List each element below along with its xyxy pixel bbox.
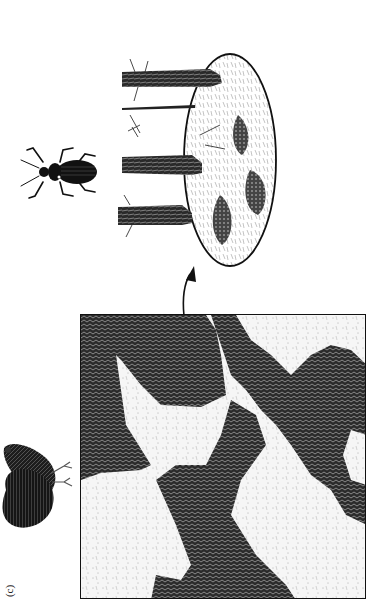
landscape-map	[80, 314, 366, 599]
zoom-arrow-icon	[170, 250, 220, 320]
figure-caption: Landscape fragmentation effects on vario…	[377, 0, 383, 603]
forest-detail-inset	[110, 45, 285, 275]
bird-icon	[0, 430, 75, 535]
beetle-icon	[15, 140, 105, 205]
panel-label: (c)	[2, 584, 16, 598]
habitat-patches	[81, 315, 366, 599]
